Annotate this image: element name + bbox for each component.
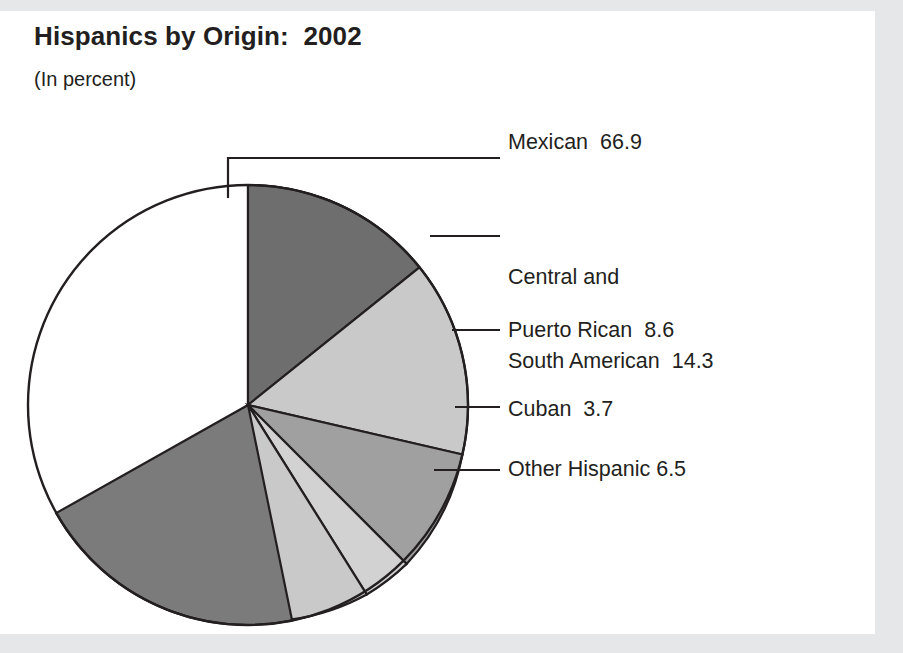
pie-label-puerto-rican: Puerto Rican 8.6	[508, 316, 674, 344]
pie-label-other-hispanic: Other Hispanic 6.5	[508, 455, 686, 483]
pie-label-mexican: Mexican 66.9	[508, 128, 642, 156]
pie-label-central-south-american-line1: Central and	[508, 263, 714, 291]
pie-label-central-south-american-line2: South American 14.3	[508, 347, 714, 375]
pie-slices	[28, 185, 468, 625]
pie-chart	[0, 0, 903, 653]
page-frame: Hispanics by Origin: 2002 (In percent)	[0, 0, 903, 653]
pie-label-cuban: Cuban 3.7	[508, 395, 613, 423]
